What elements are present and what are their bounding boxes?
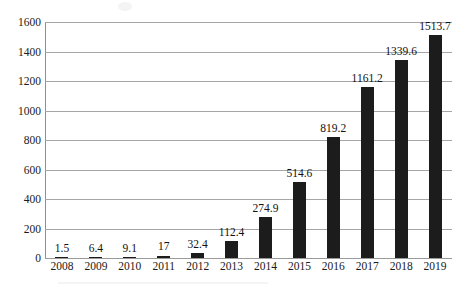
bar (259, 217, 272, 258)
bar-value-label: 1339.6 (385, 46, 417, 58)
gridline (45, 111, 452, 112)
x-axis-tick-label: 2009 (84, 261, 107, 273)
y-axis-tick-label: 1400 (18, 47, 41, 59)
bar-chart: 02004006008001000120014001600 1.56.49.11… (0, 0, 464, 289)
x-axis-tick-label: 2010 (118, 261, 141, 273)
gridline (45, 81, 452, 82)
bar (429, 35, 442, 258)
y-axis-tick-label: 1200 (18, 76, 41, 88)
bar (157, 256, 170, 259)
bar-value-label: 9.1 (123, 243, 137, 255)
x-axis-tick-label: 2018 (390, 261, 413, 273)
x-axis-labels: 2008200920102011201220132014201520162017… (45, 261, 452, 277)
gridline (45, 170, 452, 171)
bar (225, 241, 238, 258)
y-axis-tick-label: 600 (24, 165, 41, 177)
bar (89, 257, 102, 258)
gridline (45, 140, 452, 141)
bar (293, 182, 306, 258)
bar-value-label: 1161.2 (352, 73, 383, 85)
plot-area: 1.56.49.11732.4112.4274.9514.6819.21161.… (45, 22, 452, 258)
x-axis-tick-label: 2008 (50, 261, 73, 273)
y-axis-labels: 02004006008001000120014001600 (0, 0, 41, 289)
bar (123, 257, 136, 258)
bar-value-label: 6.4 (89, 243, 103, 255)
x-axis-tick-label: 2013 (220, 261, 243, 273)
bar-value-label: 274.9 (253, 203, 279, 215)
bar (327, 137, 340, 258)
y-axis-tick-label: 0 (35, 253, 41, 265)
y-axis-tick-label: 200 (24, 224, 41, 236)
x-axis-tick-label: 2012 (186, 261, 209, 273)
scan-artifact-bottom (58, 282, 268, 284)
bar-value-label: 32.4 (188, 239, 208, 251)
x-axis-tick-label: 2019 (424, 261, 447, 273)
x-axis-tick-label: 2011 (152, 261, 175, 273)
x-axis-tick-label: 2017 (356, 261, 379, 273)
bar (191, 253, 204, 258)
x-axis-tick-label: 2015 (288, 261, 311, 273)
x-axis-tick-label: 2016 (322, 261, 345, 273)
y-axis-tick-label: 1600 (18, 17, 41, 29)
gridline (45, 22, 452, 23)
gridline (45, 199, 452, 200)
bar-value-label: 17 (158, 241, 170, 253)
x-axis-tick-label: 2014 (254, 261, 277, 273)
bar (395, 60, 408, 258)
y-axis-tick-label: 800 (24, 135, 41, 147)
bar (361, 87, 374, 258)
y-axis-tick-label: 400 (24, 194, 41, 206)
scan-artifact-top (118, 2, 132, 11)
y-axis-tick-label: 1000 (18, 106, 41, 118)
gridline (45, 258, 452, 259)
bar-value-label: 514.6 (286, 168, 312, 180)
bar-value-label: 1.5 (55, 243, 69, 255)
bar-value-label: 819.2 (320, 123, 346, 135)
bar-value-label: 112.4 (219, 227, 244, 239)
bar (55, 257, 68, 258)
bar-value-label: 1513.7 (419, 21, 451, 33)
gridline (45, 229, 452, 230)
